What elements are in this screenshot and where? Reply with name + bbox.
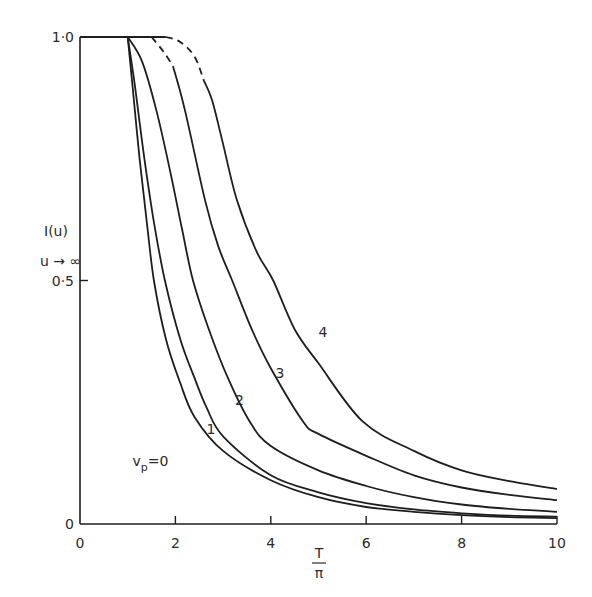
x-tick-label: 2 [171, 535, 180, 551]
curve-label: 1 [206, 421, 215, 437]
curve-2 [128, 37, 557, 512]
x-axis-label-denominator: π [315, 565, 324, 581]
x-tick-label: 6 [362, 535, 371, 551]
curve-labels: vp=01234 [132, 324, 327, 474]
x-tick-label: 10 [548, 535, 566, 551]
curve-dashed-4 [166, 37, 204, 81]
x-tick-label: 4 [266, 535, 275, 551]
curve-label: vp=0 [132, 453, 168, 474]
axes: 024681000·51·0 [52, 29, 566, 551]
curve-label: 2 [235, 392, 244, 408]
y-axis-label-limit: u → ∞ [40, 253, 81, 269]
y-tick-label: 1·0 [52, 29, 74, 45]
curve-label: 4 [319, 324, 328, 340]
x-tick-label: 8 [457, 535, 466, 551]
curve-dashed-3 [152, 37, 173, 66]
x-axis-label-numerator: T [314, 545, 324, 561]
curve-4 [204, 81, 557, 489]
x-tick-label: 0 [76, 535, 85, 551]
line-chart: 024681000·51·0 vp=01234 I(u) u → ∞ T π [0, 0, 592, 597]
curves [128, 37, 557, 518]
y-tick-label: 0 [65, 516, 74, 532]
curve-3 [173, 66, 557, 500]
y-tick-label: 0·5 [52, 273, 74, 289]
curve-label: 3 [276, 365, 285, 381]
y-axis-label: I(u) [44, 223, 68, 239]
